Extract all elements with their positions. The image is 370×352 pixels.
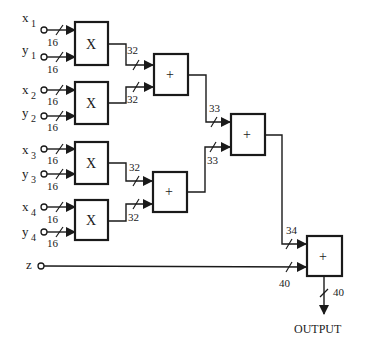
plus-icon: + bbox=[319, 249, 327, 264]
bus-width-label: 40 bbox=[333, 286, 345, 298]
output-label: OUTPUT bbox=[294, 322, 342, 336]
input-y4: y 4 16 bbox=[22, 224, 75, 249]
input-port-icon bbox=[41, 146, 47, 152]
input-label: y bbox=[22, 166, 29, 181]
bus-width-label: 16 bbox=[47, 180, 59, 192]
input-port-icon bbox=[41, 229, 47, 235]
input-port-icon bbox=[41, 54, 47, 60]
bus-width-label: 16 bbox=[47, 63, 59, 75]
bus-width-label: 32 bbox=[129, 161, 140, 173]
input-label: x bbox=[22, 142, 29, 157]
input-port-icon bbox=[41, 204, 47, 210]
mult2-to-adder1-wire: 32 bbox=[108, 82, 153, 105]
bus-width-label: 16 bbox=[47, 213, 59, 225]
input-label: x bbox=[22, 82, 29, 97]
final-adder: + bbox=[307, 236, 342, 276]
bus-width-label: 34 bbox=[286, 224, 298, 236]
mult4-to-adder2-wire: 32 bbox=[108, 199, 152, 223]
bus-width-label: 16 bbox=[47, 121, 59, 133]
plus-icon: + bbox=[166, 67, 174, 82]
input-label: y bbox=[22, 224, 29, 239]
input-port-icon bbox=[41, 171, 47, 177]
multiply-icon: X bbox=[86, 213, 96, 228]
input-y2: y 2 16 bbox=[22, 105, 75, 133]
multiplier-4: X bbox=[75, 200, 108, 240]
bus-width-label: 16 bbox=[47, 95, 59, 107]
input-label: x bbox=[22, 10, 29, 25]
input-label: x bbox=[22, 199, 29, 214]
input-subscript: 3 bbox=[31, 150, 36, 161]
bus-width-label: 40 bbox=[279, 277, 291, 289]
bus-width-label: 32 bbox=[127, 93, 138, 105]
multiplier-1: X bbox=[75, 22, 108, 65]
input-label: z bbox=[26, 257, 32, 272]
input-port-icon bbox=[41, 87, 47, 93]
adder1-to-adder3-wire: 33 bbox=[188, 75, 230, 127]
input-port-icon bbox=[41, 113, 47, 119]
input-z: z 40 bbox=[26, 257, 306, 289]
bus-width-label: 33 bbox=[209, 102, 221, 114]
input-subscript: 3 bbox=[31, 174, 36, 185]
input-x1: x 1 16 bbox=[22, 10, 75, 48]
input-port-icon bbox=[38, 263, 44, 269]
multiplier-3: X bbox=[75, 142, 108, 184]
mult3-to-adder2-wire: 32 bbox=[108, 161, 152, 186]
bus-width-label: 33 bbox=[207, 154, 219, 166]
adder-3: + bbox=[231, 114, 265, 155]
input-subscript: 2 bbox=[31, 113, 36, 124]
bus-width-label: 16 bbox=[47, 237, 59, 249]
multiply-icon: X bbox=[86, 96, 96, 111]
bus-width-label: 32 bbox=[128, 211, 139, 223]
input-y3: y 3 16 bbox=[22, 166, 75, 192]
bus-width-label: 16 bbox=[47, 36, 59, 48]
input-subscript: 1 bbox=[31, 18, 36, 29]
input-label: y bbox=[22, 105, 29, 120]
adder-1: + bbox=[154, 54, 188, 95]
input-x4: x 4 16 bbox=[22, 199, 75, 225]
multiplier-2: X bbox=[75, 82, 108, 124]
input-x3: x 3 16 bbox=[22, 142, 75, 166]
plus-icon: + bbox=[243, 127, 251, 142]
input-x2: x 2 16 bbox=[22, 82, 75, 107]
adder2-to-adder3-wire: 33 bbox=[187, 142, 230, 192]
input-subscript: 2 bbox=[31, 90, 36, 101]
input-subscript: 4 bbox=[31, 207, 36, 218]
input-label: y bbox=[22, 42, 29, 57]
multiply-icon: X bbox=[86, 37, 96, 52]
mult1-to-adder1-wire: 32 bbox=[108, 44, 153, 70]
adder-2: + bbox=[153, 172, 187, 212]
adder3-to-final-wire: 34 bbox=[265, 135, 306, 249]
input-port-icon bbox=[41, 27, 47, 33]
output: 40 OUTPUT bbox=[294, 276, 345, 336]
input-subscript: 4 bbox=[31, 232, 36, 243]
input-subscript: 1 bbox=[31, 50, 36, 61]
multiply-accumulate-diagram: x 1 16 y 1 16 X x 2 16 y 2 16 X bbox=[0, 0, 370, 352]
plus-icon: + bbox=[165, 184, 173, 199]
multiply-icon: X bbox=[86, 156, 96, 171]
bus-width-label: 32 bbox=[127, 44, 138, 56]
bus-width-label: 16 bbox=[47, 154, 59, 166]
